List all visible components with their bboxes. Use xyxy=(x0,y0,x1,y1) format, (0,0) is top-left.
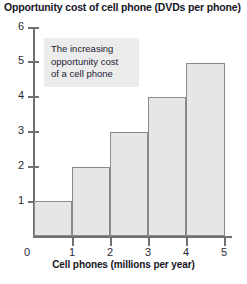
x-tick-label-4: 4 xyxy=(176,246,196,259)
y-tick-label-4: 4 xyxy=(18,89,24,101)
x-tick-2 xyxy=(110,236,112,246)
y-tick-label-5: 5 xyxy=(18,54,24,66)
x-axis-line xyxy=(33,236,232,238)
x-tick-label-1: 1 xyxy=(62,246,82,259)
x-tick-label-5: 5 xyxy=(214,246,234,259)
y-tick-label-2: 2 xyxy=(18,159,24,171)
annotation-line-1: The increasing xyxy=(51,43,133,56)
bar-0-1 xyxy=(34,201,72,236)
y-tick-label-1: 1 xyxy=(18,194,24,206)
bar-1-2 xyxy=(72,167,110,236)
annotation-callout: The increasing opportunity cost of a cel… xyxy=(44,38,139,87)
y-tick-label-3: 3 xyxy=(18,124,24,136)
chart-title: Opportunity cost of cell phone (DVDs per… xyxy=(4,1,247,13)
x-tick-label-3: 3 xyxy=(138,246,158,259)
x-tick-5 xyxy=(224,236,226,246)
x-tick-3 xyxy=(148,236,150,246)
x-tick-4 xyxy=(186,236,188,246)
y-tick-label-6: 6 xyxy=(18,20,24,32)
x-tick-1 xyxy=(72,236,74,246)
x-axis-label: Cell phones (millions per year) xyxy=(0,259,247,270)
x-tick-label-2: 2 xyxy=(100,246,120,259)
annotation-line-2: opportunity cost xyxy=(51,56,133,69)
origin-label: 0 xyxy=(24,246,30,259)
bar-4-5 xyxy=(186,63,225,236)
annotation-line-3: of a cell phone xyxy=(51,68,133,81)
bar-2-3 xyxy=(110,132,148,236)
opportunity-cost-bar-chart: Opportunity cost of cell phone (DVDs per… xyxy=(0,0,247,284)
bar-3-4 xyxy=(148,97,186,236)
